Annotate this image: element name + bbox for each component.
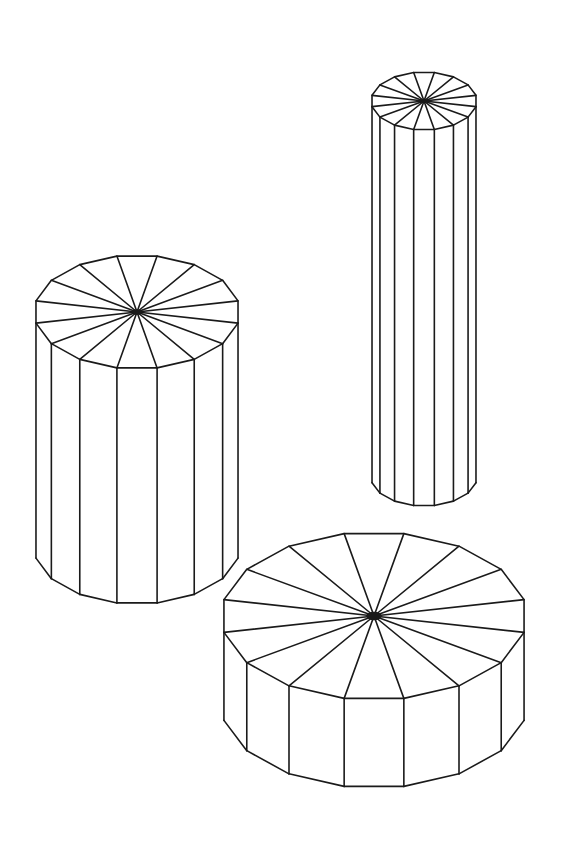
center-hub [132,309,142,315]
prism-drawing [0,0,567,847]
tall-cylinder [372,73,476,506]
figure-canvas [0,0,567,847]
wide-cylinder [224,534,524,787]
medium-cylinder [36,256,238,603]
center-hub [421,99,427,103]
center-hub [366,612,381,620]
